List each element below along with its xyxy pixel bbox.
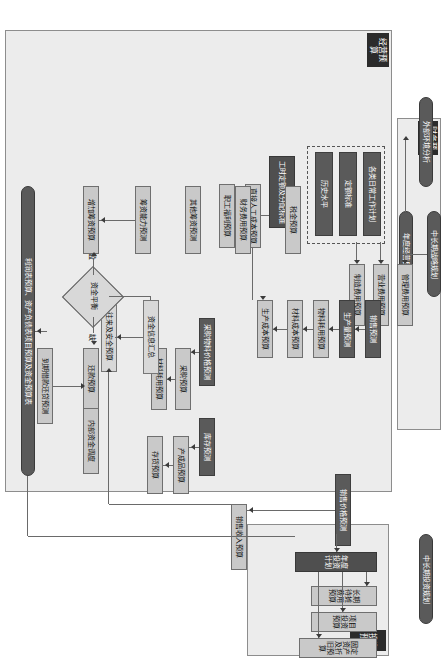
input-midlong-invest: 中长期投资规划 xyxy=(419,534,433,624)
arrow-basis-to-selling xyxy=(378,260,384,264)
node-tax-budget: 税金预算 xyxy=(285,186,301,254)
input-midlong-strategy: 中长期战略规划 xyxy=(427,211,441,297)
arrow-labor-to-production xyxy=(260,296,266,300)
group-title-operating-budget: 经营预算 xyxy=(367,33,389,67)
arrow-basis-to-admin xyxy=(402,260,408,264)
connector-basis-to-selling xyxy=(380,242,381,262)
connector-receivable-up xyxy=(109,296,151,297)
arrow-price-to-purchase xyxy=(191,349,195,355)
connector-basis-to-manufacturing xyxy=(356,242,357,262)
node-purchase-price-forecast: 采购物料价格预测 xyxy=(199,318,215,386)
node-stock-budget: 存货预算 xyxy=(147,436,163,494)
connector-annualplan-to-project xyxy=(342,572,343,612)
arrow-goal-to-basis xyxy=(403,136,409,140)
arrow-inventory-to-finished xyxy=(191,444,195,450)
node-longterm-amortized-budget: 长期待摊费用预算 xyxy=(311,586,377,606)
arrow-cash-to-diamond xyxy=(117,334,121,340)
connector-basis-to-admin xyxy=(404,242,405,262)
arrow-purchase-to-consume xyxy=(167,376,171,382)
connector-investment-down xyxy=(28,536,295,537)
node-sales-revenue-budget: 销售收入预算 xyxy=(231,504,247,570)
arrow-basis-to-manufacturing xyxy=(354,260,360,264)
arrow-annualplan-to-project xyxy=(340,608,346,612)
arrow-materialcost-to-production xyxy=(273,326,277,332)
arrow-materialuse-to-materialcost xyxy=(303,326,307,332)
arrow-midlonginvest-to-annualplan xyxy=(334,548,340,552)
node-due-loan-repay-forecast: 到期借款还贷预测 xyxy=(37,348,53,424)
arrow-sales-to-output xyxy=(355,326,359,332)
connector-revenue-to-receivable xyxy=(108,372,109,504)
node-fixed-asset-depreciation-budget: 固定资产及折旧预算 xyxy=(299,638,377,658)
connector-goal-to-basis xyxy=(405,140,406,212)
node-sales-price-forecast: 销售价格预测 xyxy=(335,474,351,546)
connector-labor-to-production xyxy=(261,215,269,216)
node-final-output-budget: 利润表预算、资产负债表项目预算及资金预算表 xyxy=(21,186,35,476)
node-production-cost-budget: 生产成本预算 xyxy=(257,300,273,358)
node-cash-info-summary: 资金信息汇总 xyxy=(143,300,159,374)
connector-salesprice-down xyxy=(247,510,335,511)
connector-diamond-to-deficit xyxy=(93,317,94,333)
connector-annualplan-to-fixed xyxy=(318,572,319,638)
connector-diamond-to-surplus xyxy=(93,258,94,275)
arrow-revenue-to-receivable xyxy=(106,368,112,372)
connector-labor-join xyxy=(252,248,253,300)
node-employee-welfare: 职工福利预算 xyxy=(219,184,235,248)
connector-revenue-down xyxy=(109,504,231,505)
node-annual-investment-plan: 年度投资计划 xyxy=(295,552,377,572)
node-add-financing-budget: 增加筹资预算 xyxy=(83,186,99,254)
arrow-final-output xyxy=(37,328,41,334)
node-finished-goods-budget: 产成品预算 xyxy=(173,436,189,494)
node-project-investment-budget: 项目投资预算 xyxy=(311,612,377,632)
arrow-diamond-deficit xyxy=(91,341,97,345)
node-financing-capacity-forecast: 筹资能力预测 xyxy=(135,186,151,254)
connector-dueloan-to-repay xyxy=(53,386,83,387)
connector-strategy-to-chain xyxy=(407,254,427,255)
arrow-annualplan-to-fixed xyxy=(316,634,322,638)
decision-cash-balance-label: 资金平衡 xyxy=(86,268,102,324)
node-purchase-budget: 采购预算 xyxy=(175,348,191,410)
arrow-finished-to-stock xyxy=(165,462,169,468)
node-quota-standard: 定额标准 xyxy=(339,152,357,236)
node-repay-budget: 还款预算 xyxy=(83,348,99,410)
node-admin-expense-budget: 管理费用预算 xyxy=(397,264,413,326)
node-other-financing-forecast: 其他筹资预测 xyxy=(185,186,201,254)
node-material-use-budget: 物料耗用预算 xyxy=(313,300,329,358)
diagram-canvas: 经营预算 财务预算 投资预算 外部环境分析 中长期战略规划 年度经营目标 中长期… xyxy=(0,0,447,666)
arrow-financing-to-addfinancing xyxy=(101,217,105,223)
node-sales-forecast: 销售预测 xyxy=(365,300,381,358)
node-material-cost-budget: 材料成本预算 xyxy=(287,300,303,358)
node-internal-fund-dispatch: 内部资金调度 xyxy=(83,408,99,474)
connector-investment-to-output xyxy=(27,476,28,536)
node-output-forecast: 生产量预测 xyxy=(339,300,355,358)
node-history-level: 历史水平 xyxy=(315,152,333,236)
arrow-dueloan-to-repay xyxy=(81,383,85,389)
input-external-env: 外部环境分析 xyxy=(419,97,433,187)
node-financial-expense-budget: 财务费用预算 xyxy=(235,186,251,254)
arrow-diamond-surplus xyxy=(91,252,97,256)
arrow-output-to-material-use xyxy=(329,326,333,332)
node-daily-plans: 各类日常工作计划 xyxy=(363,152,381,236)
diagram-stage: 经营预算 财务预算 投资预算 外部环境分析 中长期战略规划 年度经营目标 中长期… xyxy=(0,0,447,666)
arrow-annualplan-to-longterm xyxy=(364,582,370,586)
node-inventory-forecast: 库存预测 xyxy=(199,418,215,476)
label-deficit: 缺 xyxy=(88,334,98,341)
arrow-salesprice-to-revenue xyxy=(249,507,253,513)
